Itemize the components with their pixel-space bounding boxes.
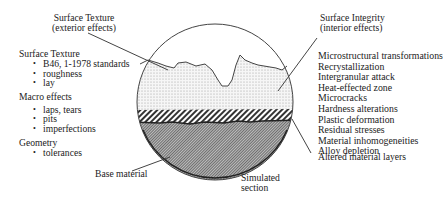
callout-subtitle: (interior effects)	[320, 23, 385, 33]
surface-texture-callout: Surface Texture (exterior effects)	[52, 13, 116, 33]
surface-integrity-callout: Surface Integrity (interior effects)	[320, 13, 385, 33]
leader-altered-layers	[292, 119, 311, 153]
right-panel: Microstructural transformations Recrysta…	[318, 51, 443, 157]
group-macro-effects: Macro effects laps, tears pits imperfect…	[19, 92, 130, 134]
list-item: Microstructural transformations	[318, 51, 443, 62]
callout-subtitle: (exterior effects)	[52, 23, 116, 33]
label-line: section	[241, 183, 280, 193]
surface-texture-region	[130, 55, 300, 112]
simulated-section-label: Simulated section	[241, 173, 280, 193]
group-surface-texture: Surface Texture B46, 1-1978 standards ro…	[19, 49, 130, 88]
list-item: tolerances	[33, 148, 130, 158]
left-panel: Surface Texture B46, 1-1978 standards ro…	[19, 49, 130, 157]
base-material-region	[130, 118, 310, 198]
group-heading: Macro effects	[19, 92, 130, 102]
list-item: imperfections	[33, 124, 130, 134]
group-geometry: Geometry tolerances	[19, 138, 130, 158]
altered-layers-label: Altered material layers	[318, 152, 406, 162]
list-item: lay	[33, 78, 130, 88]
list-item: Hardness alterations	[318, 104, 443, 115]
base-material-label: Base material	[95, 169, 147, 179]
